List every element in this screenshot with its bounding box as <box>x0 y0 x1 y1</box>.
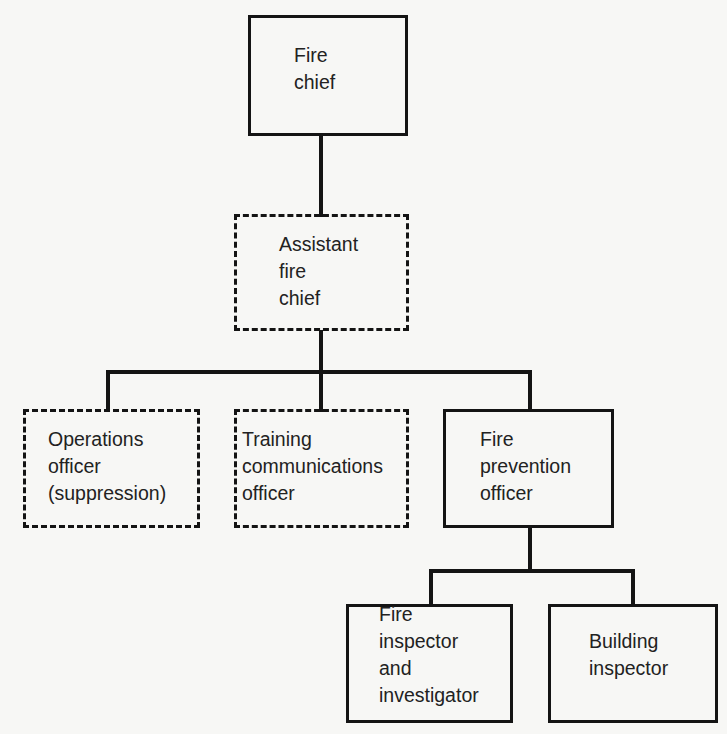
node-label: Operations officer (suppression) <box>48 426 166 507</box>
node-fire-chief: Fire chief <box>248 15 408 136</box>
node-label: Building inspector <box>589 628 668 682</box>
node-fire-prevention-officer: Fire prevention officer <box>443 409 614 528</box>
node-building-inspector: Building inspector <box>548 604 718 723</box>
connector-to-operations <box>106 370 110 412</box>
node-fire-inspector-investigator: Fire inspector and investigator <box>346 604 513 723</box>
connector-to-prevention <box>528 370 532 412</box>
node-label: Fire inspector and investigator <box>379 601 479 709</box>
connector-to-building-inspector <box>631 569 635 607</box>
node-label: Assistant fire chief <box>279 231 358 312</box>
connector-prevention-down <box>528 527 532 572</box>
node-operations-officer: Operations officer (suppression) <box>23 409 200 528</box>
node-assistant-fire-chief: Assistant fire chief <box>234 214 409 331</box>
node-label: Fire chief <box>294 42 335 96</box>
bus-level-3 <box>429 569 634 573</box>
node-label: Training communications officer <box>242 426 383 507</box>
connector-chief-to-assistant <box>319 135 323 217</box>
node-training-communications-officer: Training communications officer <box>234 409 409 528</box>
node-label: Fire prevention officer <box>480 426 571 507</box>
bus-level-2 <box>106 370 532 374</box>
